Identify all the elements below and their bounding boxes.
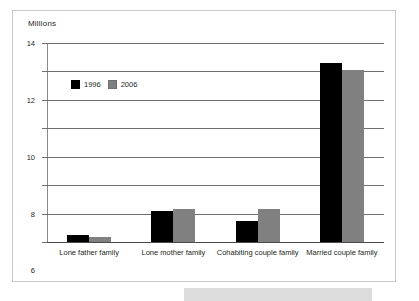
category-label-lone-father-family: Lone father family — [47, 248, 131, 258]
bar-2006-lone-mother-family — [173, 209, 195, 242]
bar-1996-cohabiting-couple-family — [236, 221, 258, 242]
y-tick-label-6: 6 — [31, 266, 35, 275]
category-label-married-couple-family: Married couple family — [300, 248, 384, 258]
bar-1996-lone-father-family — [67, 235, 89, 242]
y-tick-0: 0 — [42, 242, 47, 243]
y-tick-10: 10 — [42, 100, 47, 101]
y-axis-title: Millions — [28, 19, 56, 28]
y-tick-label-14: 14 — [27, 39, 35, 48]
bar-2006-lone-father-family — [89, 237, 111, 242]
gridline-0 — [47, 242, 384, 243]
gridline-14 — [47, 43, 384, 44]
y-tick-label-8: 8 — [31, 209, 35, 218]
legend-item-2006[interactable]: 2006 — [108, 80, 138, 89]
legend-swatch-2006 — [108, 80, 117, 89]
y-tick-4: 4 — [42, 185, 47, 186]
bottom-gray-band — [184, 288, 372, 301]
category-label-lone-mother-family: Lone mother family — [131, 248, 215, 258]
legend-label-2006: 2006 — [121, 80, 138, 89]
category-label-cohabiting-couple-family: Cohabiting couple family — [216, 248, 300, 258]
y-tick-14: 14 — [42, 43, 47, 44]
y-tick-8: 8 — [42, 128, 47, 129]
y-tick-6: 6 — [42, 157, 47, 158]
y-tick-12: 12 — [42, 71, 47, 72]
y-tick-label-10: 10 — [27, 152, 35, 161]
chart-figure: Millions 02468101214 Lone father familyL… — [0, 0, 419, 301]
legend-label-1996: 1996 — [84, 80, 101, 89]
legend-item-1996[interactable]: 1996 — [71, 80, 101, 89]
plot-area: 02468101214 Lone father familyLone mothe… — [47, 43, 384, 242]
bar-1996-lone-mother-family — [151, 211, 173, 242]
y-tick-2: 2 — [42, 214, 47, 215]
legend-swatch-1996 — [71, 80, 80, 89]
bar-2006-married-couple-family — [342, 70, 364, 242]
chart-legend: 1996 2006 — [71, 80, 137, 89]
bar-1996-married-couple-family — [320, 63, 342, 242]
y-tick-label-12: 12 — [27, 95, 35, 104]
bar-2006-cohabiting-couple-family — [258, 209, 280, 242]
